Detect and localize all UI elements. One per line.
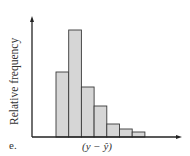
x-axis-label: (y − ŷ) (82, 140, 112, 152)
histogram-bar (69, 30, 82, 137)
bars (56, 30, 145, 137)
panel-label: e. (9, 139, 17, 151)
histogram-bar (94, 106, 107, 137)
histogram-bar (132, 132, 145, 137)
y-axis-arrow-icon (30, 16, 34, 22)
histogram-bar (120, 129, 133, 137)
x-axis-arrow-icon (176, 135, 182, 139)
histogram-bar (56, 72, 69, 137)
histogram-chart (0, 0, 190, 156)
histogram-bar (81, 87, 94, 137)
histogram-bar (107, 124, 120, 137)
y-axis-label: Relative frequency (8, 38, 20, 125)
